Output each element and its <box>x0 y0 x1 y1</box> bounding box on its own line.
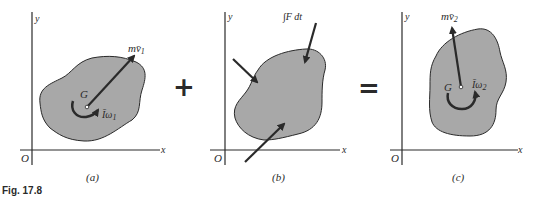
panel-b: ∫F dt y x O (b) <box>210 11 347 184</box>
rigid-body <box>430 29 507 136</box>
x-axis-label: x <box>341 144 347 155</box>
equals-operator: = <box>358 73 380 103</box>
impulse-arrow-left <box>233 59 257 82</box>
rigid-body <box>234 49 325 140</box>
panel-a: G mv̄1 Īω1 y x O (a) <box>20 12 166 184</box>
impulse-label: ∫F dt <box>282 11 302 23</box>
center-label: G <box>444 81 452 93</box>
panel-label: (a) <box>86 171 99 184</box>
plus-operator: + <box>173 72 195 102</box>
figure-caption: Fig. 17.8 <box>2 185 42 196</box>
y-axis-label: y <box>227 11 233 22</box>
origin-label: O <box>21 152 29 164</box>
momentum-label: mv̄1 <box>128 42 145 56</box>
center-label: G <box>80 88 88 100</box>
panel-c: G mv̄2 Īω2 y x O (c) <box>390 10 523 184</box>
origin-label: O <box>391 152 399 164</box>
panel-label: (c) <box>452 171 465 184</box>
x-axis-label: x <box>160 144 166 155</box>
mass-center-point <box>459 85 463 89</box>
mass-center-point <box>85 105 89 109</box>
x-axis-label: x <box>517 144 523 155</box>
rigid-body <box>40 56 145 141</box>
momentum-label: mv̄2 <box>441 10 458 24</box>
y-axis-label: y <box>404 11 410 22</box>
impulse-momentum-diagram: G mv̄1 Īω1 y x O (a) + ∫F dt y x O (b) =… <box>0 0 537 199</box>
origin-label: O <box>214 152 222 164</box>
y-axis-label: y <box>34 13 40 24</box>
panel-label: (b) <box>272 171 285 184</box>
